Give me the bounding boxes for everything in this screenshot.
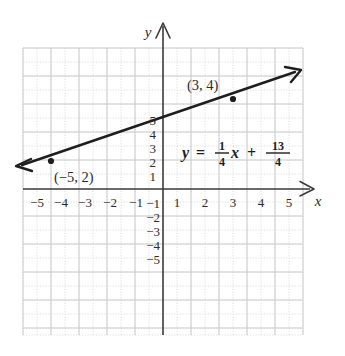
- x-tick-2: 2: [202, 195, 209, 210]
- equation-frac2-numerator: 13: [272, 139, 284, 153]
- y-tick--4: −4: [146, 238, 160, 253]
- point-label-left: (−5, 2): [54, 169, 94, 186]
- y-tick-2: 2: [150, 155, 157, 170]
- y-tick--2: −2: [146, 210, 160, 225]
- graph-figure: x y −5 −4 −3 −2 −1 1 2 3 4 5 5 4 3 2 1 −…: [0, 0, 345, 356]
- equation-equals: =: [196, 144, 205, 161]
- y-tick--5: −5: [146, 252, 160, 267]
- y-axis-label: y: [143, 24, 152, 40]
- y-tick--1: −1: [146, 196, 160, 211]
- y-tick-4: 4: [150, 127, 157, 142]
- y-tick--3: −3: [146, 224, 160, 239]
- x-axis-label: x: [314, 193, 322, 209]
- x-tick--2: −2: [103, 195, 117, 210]
- equation-plus: +: [247, 144, 256, 161]
- equation-frac2-denominator: 4: [275, 155, 281, 169]
- data-point-3-4: [230, 96, 236, 102]
- equation-variable: x: [230, 144, 239, 161]
- x-tick-1: 1: [174, 195, 181, 210]
- coordinate-plane-svg: x y −5 −4 −3 −2 −1 1 2 3 4 5 5 4 3 2 1 −…: [0, 0, 345, 356]
- point-label-right: (3, 4): [187, 77, 219, 94]
- y-tick-1: 1: [150, 169, 157, 184]
- x-tick--5: −5: [30, 195, 44, 210]
- x-tick--3: −3: [78, 195, 92, 210]
- x-tick-3: 3: [230, 195, 237, 210]
- data-point-minus5-2: [48, 158, 54, 164]
- figure-background: [0, 0, 345, 356]
- x-tick-5: 5: [286, 195, 293, 210]
- x-tick--1: −1: [129, 195, 143, 210]
- equation-frac1-numerator: 1: [219, 139, 225, 153]
- x-tick-4: 4: [258, 195, 265, 210]
- x-tick--4: −4: [54, 195, 68, 210]
- equation-frac1-denominator: 4: [219, 155, 225, 169]
- equation-lhs: y: [180, 144, 190, 162]
- y-tick-3: 3: [150, 141, 157, 156]
